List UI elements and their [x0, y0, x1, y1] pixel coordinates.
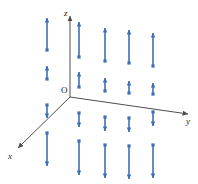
- vector-tail-marker: [45, 77, 48, 80]
- vector-tail-marker: [45, 48, 48, 51]
- vector-tail-marker: [77, 85, 80, 88]
- vector-tail-marker: [127, 144, 130, 147]
- column-5: [151, 33, 154, 178]
- vector-tail-marker: [151, 143, 154, 146]
- vector-tail-marker: [77, 139, 80, 142]
- vector-tail-marker: [151, 64, 154, 67]
- axis-label-z: z: [64, 9, 68, 18]
- vector-tail-marker: [45, 131, 48, 134]
- vector-tail-marker: [103, 89, 106, 92]
- column-1: [45, 18, 48, 166]
- column-4: [127, 30, 130, 179]
- vector-tail-marker: [103, 143, 106, 146]
- vector-tail-marker: [45, 103, 48, 106]
- vector-tail-marker: [103, 115, 106, 118]
- vector-tail-marker: [77, 111, 80, 114]
- axis-line-y: [70, 97, 188, 114]
- axis-label-x: x: [8, 152, 12, 161]
- vector-field-canvas: [0, 0, 198, 184]
- vector-tail-marker: [77, 55, 80, 58]
- vector-tail-marker: [151, 110, 154, 113]
- vector-arrows: [45, 18, 154, 179]
- vector-tail-marker: [127, 116, 130, 119]
- coordinate-axes: [18, 16, 188, 148]
- origin-label: O: [61, 86, 68, 95]
- vector-tail-marker: [127, 91, 130, 94]
- column-3: [103, 28, 106, 178]
- axis-line-x: [18, 97, 70, 148]
- vector-tail-marker: [127, 61, 130, 64]
- vector-tail-marker: [151, 92, 154, 95]
- axis-label-y: y: [186, 117, 190, 126]
- vector-tail-marker: [103, 59, 106, 62]
- vector-field-figure: z y x O: [0, 0, 198, 184]
